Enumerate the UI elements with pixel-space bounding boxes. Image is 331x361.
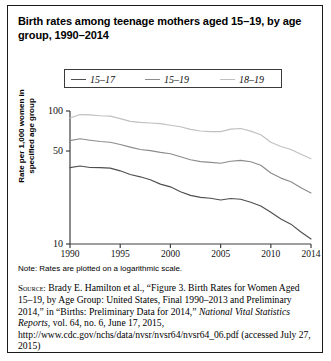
legend-label-15-17: 15–17 (90, 74, 115, 85)
legend-swatch-15-19 (145, 79, 160, 80)
legend-label-18-19: 18–19 (239, 74, 264, 85)
source-label: Source: (18, 283, 46, 293)
y-axis-title: Rate per 1,000 women in specified age gr… (17, 71, 37, 201)
y-tick-label: 50 (37, 145, 63, 156)
x-tick-label: 2000 (150, 249, 190, 259)
x-tick-label: 2005 (201, 249, 241, 259)
legend-label-15-19: 15–19 (164, 74, 189, 85)
y-tick-label: 100 (37, 105, 63, 116)
x-tick-label: 2010 (251, 249, 291, 259)
legend-item-15-17: 15–17 (71, 73, 115, 86)
figure-title: Birth rates among teenage mothers aged 1… (18, 14, 310, 42)
source-text-2: , vol. 64, no. 6, June 17, 2015, http://… (18, 317, 311, 351)
y-tick-label: 10 (37, 238, 63, 249)
x-tick-label: 2014 (291, 249, 331, 259)
chart-note: Note: Rates are plotted on a logarithmic… (18, 263, 316, 274)
legend-item-15-19: 15–19 (145, 73, 189, 86)
x-tick-label: 1990 (50, 249, 90, 259)
legend-swatch-15-17 (71, 79, 86, 80)
source-citation: Source: Brady E. Hamilton et al., “Figur… (18, 282, 316, 351)
legend-swatch-18-19 (220, 79, 235, 80)
x-tick-label: 1995 (100, 249, 140, 259)
figure-container: Birth rates among teenage mothers aged 1… (7, 5, 323, 353)
legend-item-18-19: 18–19 (220, 73, 264, 86)
chart-legend: 15–17 15–19 18–19 (64, 69, 282, 88)
